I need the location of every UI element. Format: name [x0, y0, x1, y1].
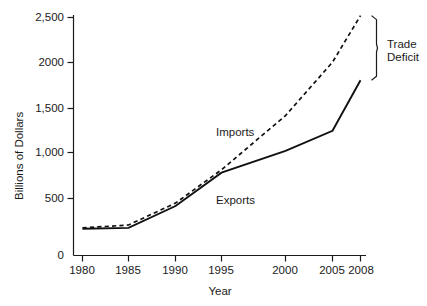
- y-tick-label-0: 0: [18, 249, 64, 262]
- y-axis-title: Billions of Dollars: [13, 112, 26, 200]
- x-tick-label-1980: 1980: [60, 264, 104, 277]
- x-axis-title: Year: [190, 285, 250, 298]
- trade-deficit-label: Trade Deficit: [387, 38, 419, 64]
- chart-plot-area: [0, 0, 427, 306]
- trade-deficit-line2: Deficit: [387, 51, 419, 64]
- trade-deficit-bracket: [372, 16, 378, 81]
- y-tick-label-2000: 2000: [18, 56, 64, 69]
- x-tick-label-1985: 1985: [106, 264, 150, 277]
- trade-deficit-line1: Trade: [387, 38, 419, 51]
- x-tick-label-1990: 1990: [153, 264, 197, 277]
- y-tick-label-2500: 2,500: [18, 11, 64, 24]
- chart-figure: 2,500 2000 1,500 1,000 500 0 1980 1985 1…: [0, 0, 427, 306]
- x-tick-label-2000: 2000: [263, 264, 307, 277]
- x-tick-label-1995: 1995: [199, 264, 243, 277]
- exports-series-label: Exports: [216, 194, 255, 207]
- imports-series-label: Imports: [216, 126, 254, 139]
- x-tick-marks: [83, 256, 361, 262]
- x-tick-label-2008: 2008: [339, 264, 383, 277]
- y-tick-marks: [68, 18, 74, 199]
